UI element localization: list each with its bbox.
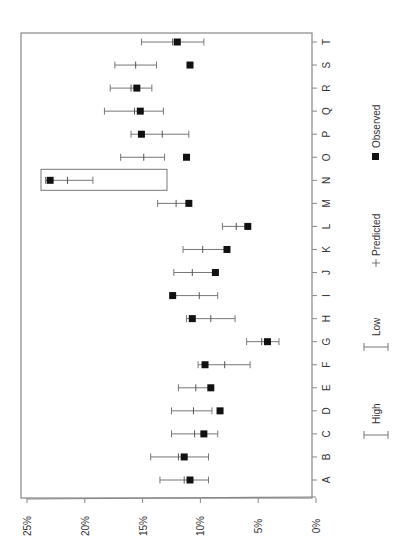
category-label: A bbox=[321, 476, 332, 483]
data-point-R bbox=[110, 85, 152, 92]
category-label: M bbox=[321, 199, 332, 207]
category-label: J bbox=[321, 270, 332, 275]
data-point-P bbox=[131, 131, 189, 138]
category-label: K bbox=[321, 246, 332, 253]
value-tick-label: 15% bbox=[138, 516, 149, 536]
category-label: F bbox=[321, 362, 332, 368]
errorbar-icon bbox=[364, 343, 388, 351]
legend-predicted-label: Predicted bbox=[371, 214, 382, 256]
value-tick-label: 0% bbox=[311, 519, 322, 534]
category-label: C bbox=[321, 430, 332, 437]
data-point-G bbox=[247, 338, 279, 345]
data-point-C bbox=[172, 430, 218, 437]
category-label: Q bbox=[321, 107, 332, 115]
data-point-I bbox=[169, 292, 218, 299]
data-point-Q bbox=[104, 108, 163, 115]
category-label: N bbox=[321, 177, 332, 184]
value-axis: 0%5%10%15%20%25% bbox=[22, 497, 322, 536]
data-point-S bbox=[115, 62, 194, 69]
error-bars bbox=[45, 39, 279, 484]
data-point-L bbox=[222, 223, 251, 230]
value-tick-label: 5% bbox=[253, 519, 264, 534]
category-label: R bbox=[321, 84, 332, 91]
category-label: S bbox=[321, 61, 332, 68]
category-label: B bbox=[321, 453, 332, 460]
data-point-B bbox=[151, 453, 209, 460]
square-marker-icon bbox=[372, 153, 379, 160]
category-label: L bbox=[321, 223, 332, 229]
legend-low: Low bbox=[364, 317, 388, 351]
data-point-N bbox=[45, 177, 92, 184]
value-tick-label: 10% bbox=[195, 516, 206, 536]
data-point-F bbox=[198, 361, 250, 368]
errorbar-icon bbox=[364, 431, 388, 439]
value-tick-label: 25% bbox=[22, 516, 33, 536]
category-label: T bbox=[321, 39, 332, 45]
legend-high-label: High bbox=[371, 403, 382, 424]
category-label: H bbox=[321, 315, 332, 322]
category-label: O bbox=[321, 153, 332, 161]
category-label: E bbox=[321, 384, 332, 391]
data-point-D bbox=[172, 407, 224, 414]
value-tick-label: 20% bbox=[80, 516, 91, 536]
plus-marker-icon bbox=[372, 259, 380, 267]
category-label: D bbox=[321, 407, 332, 414]
legend-predicted: Predicted bbox=[371, 214, 382, 267]
data-point-K bbox=[183, 246, 230, 253]
legend-observed: Observed bbox=[371, 105, 382, 160]
data-point-T bbox=[141, 39, 203, 46]
category-label: I bbox=[321, 294, 332, 297]
category-axis: ABCDEFGHIJKLMNOPQRST bbox=[312, 39, 332, 483]
data-point-E bbox=[178, 384, 214, 391]
chart: 0%5%10%15%20%25% ABCDEFGHIJKLMNOPQRST Ob… bbox=[0, 0, 410, 542]
plot-frame bbox=[21, 33, 312, 498]
data-point-H bbox=[187, 315, 236, 322]
data-point-O bbox=[121, 154, 190, 161]
data-point-M bbox=[158, 200, 193, 207]
category-label: P bbox=[321, 131, 332, 138]
data-point-J bbox=[174, 269, 219, 276]
legend-observed-label: Observed bbox=[371, 105, 382, 148]
category-label: G bbox=[321, 338, 332, 346]
legend-low-label: Low bbox=[371, 317, 382, 336]
legend: Observed Predicted Low High bbox=[364, 105, 388, 439]
legend-high: High bbox=[364, 403, 388, 439]
data-point-A bbox=[160, 477, 209, 484]
